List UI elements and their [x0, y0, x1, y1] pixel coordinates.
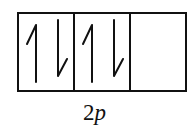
- spin-down-arrow-icon: [58, 20, 67, 76]
- spin-up-arrow-icon: [27, 25, 36, 82]
- spin-down-arrow-icon: [114, 20, 123, 76]
- orbital-diagram: 2p: [0, 0, 189, 130]
- subshell-letter: p: [95, 100, 107, 125]
- subshell-number: 2: [83, 100, 95, 125]
- orbital-box-outline: [18, 13, 186, 91]
- spin-up-arrow-icon: [83, 25, 92, 82]
- subshell-label: 2p: [0, 100, 189, 126]
